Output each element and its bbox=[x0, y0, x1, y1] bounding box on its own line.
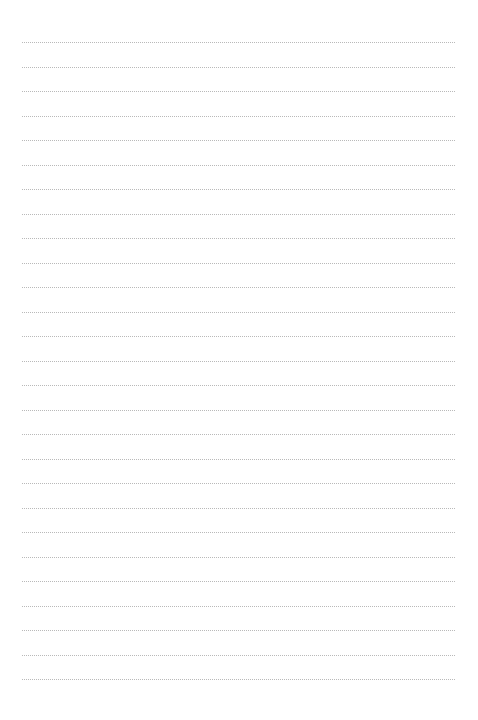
ruled-line bbox=[22, 214, 455, 215]
ruled-line bbox=[22, 116, 455, 117]
ruled-line bbox=[22, 606, 455, 607]
ruled-line bbox=[22, 483, 455, 484]
ruled-line bbox=[22, 67, 455, 68]
ruled-line bbox=[22, 630, 455, 631]
ruled-line bbox=[22, 336, 455, 337]
ruled-line bbox=[22, 91, 455, 92]
ruled-line bbox=[22, 312, 455, 313]
ruled-line bbox=[22, 679, 455, 680]
ruled-line bbox=[22, 165, 455, 166]
ruled-line bbox=[22, 508, 455, 509]
ruled-line bbox=[22, 42, 455, 43]
ruled-line bbox=[22, 459, 455, 460]
ruled-line bbox=[22, 532, 455, 533]
ruled-line bbox=[22, 581, 455, 582]
ruled-line bbox=[22, 263, 455, 264]
lined-page bbox=[0, 0, 478, 720]
ruled-line bbox=[22, 410, 455, 411]
ruled-line bbox=[22, 655, 455, 656]
ruled-line bbox=[22, 557, 455, 558]
ruled-line bbox=[22, 434, 455, 435]
ruled-line bbox=[22, 140, 455, 141]
ruled-line bbox=[22, 189, 455, 190]
ruled-line bbox=[22, 238, 455, 239]
ruled-line bbox=[22, 287, 455, 288]
ruled-line bbox=[22, 385, 455, 386]
ruled-line bbox=[22, 361, 455, 362]
